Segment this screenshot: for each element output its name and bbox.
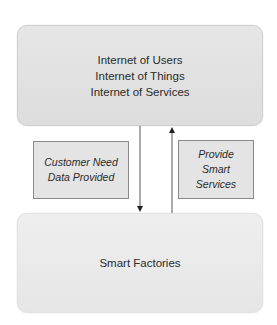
right-label-line-3: Services bbox=[196, 177, 236, 192]
down-arrow-icon bbox=[137, 126, 143, 212]
left-label-line-1: Customer Need bbox=[44, 155, 118, 170]
smart-factories-box: Smart Factories bbox=[17, 213, 263, 313]
left-label-line-2: Data Provided bbox=[48, 170, 115, 185]
smart-services-label: Provide Smart Services bbox=[178, 140, 254, 199]
up-arrow-icon bbox=[169, 127, 175, 213]
bottom-box-label: Smart Factories bbox=[99, 255, 180, 271]
right-label-line-2: Smart bbox=[202, 162, 230, 177]
customer-need-label: Customer Need Data Provided bbox=[33, 141, 129, 199]
right-label-line-1: Provide bbox=[198, 147, 234, 162]
